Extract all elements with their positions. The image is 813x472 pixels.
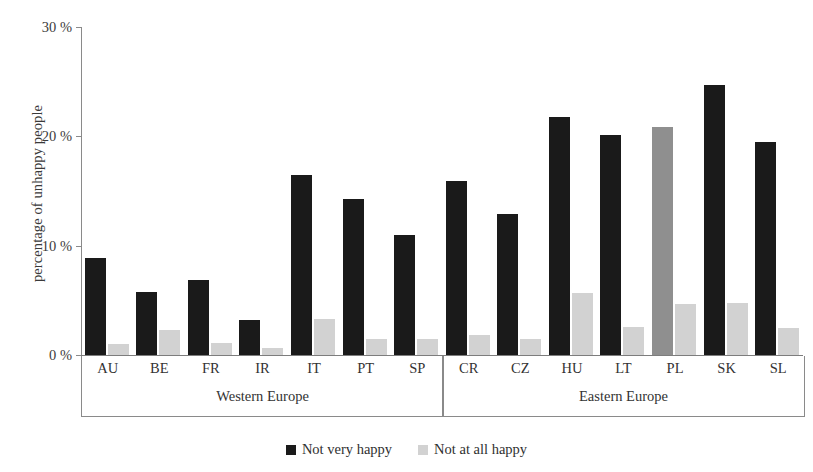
y-tick-label: 0 % [12,347,72,364]
bar-group [236,27,288,355]
bar [159,330,180,355]
bar-group [287,27,339,355]
bar-group [133,27,185,355]
category-label: AU [86,360,130,377]
bar-group [597,27,649,355]
bar [343,199,364,355]
bar-group [700,27,752,355]
category-label: SP [395,360,439,377]
bar [314,319,335,355]
category-group-box: AUBEFRIRITPTSPWestern Europe [81,356,444,417]
bar [469,335,490,355]
bar [136,292,157,355]
legend-item: Not very happy [286,441,392,458]
bar [778,328,799,355]
category-label: PL [653,360,697,377]
y-axis-title: percentage of unhappy people [29,64,46,324]
legend-item: Not at all happy [418,441,527,458]
bar [291,175,312,355]
category-label: CR [447,360,491,377]
bar-group [648,27,700,355]
category-label: BE [137,360,181,377]
plot-area: 0 %10 %20 %30 % [81,27,803,355]
y-tick-label: 10 % [12,237,72,254]
category-axis: AUBEFRIRITPTSPWestern EuropeCRCZHULTPLSK… [81,356,803,416]
bar [652,127,673,356]
bar-chart: percentage of unhappy people 0 %10 %20 %… [0,0,813,472]
bar [704,85,725,355]
bar-group [494,27,546,355]
chart-legend: Not very happyNot at all happy [0,441,813,458]
bar [675,304,696,355]
bar [497,214,518,355]
y-tick-label: 20 % [12,128,72,145]
category-group-label: Western Europe [82,388,443,405]
bar [85,258,106,355]
bar [417,339,438,355]
bar [394,235,415,355]
bar [366,339,387,355]
bar-group [442,27,494,355]
bar-group [751,27,803,355]
y-tick-mark [76,136,81,137]
bar [520,339,541,355]
bar-group [339,27,391,355]
category-group-box: CRCZHULTPLSKSLEastern Europe [442,356,805,417]
bar [600,135,621,355]
category-label: FR [189,360,233,377]
bar-group [390,27,442,355]
legend-swatch-icon [286,445,296,455]
legend-label: Not very happy [302,441,392,458]
bar-group [81,27,133,355]
bar-group [545,27,597,355]
bar [211,343,232,355]
y-tick-mark [76,27,81,28]
y-tick-label: 30 % [12,19,72,36]
category-label: PT [344,360,388,377]
category-label: LT [602,360,646,377]
bar [623,327,644,355]
category-label: SK [705,360,749,377]
bar [549,117,570,355]
bar [572,293,593,355]
legend-swatch-icon [418,445,428,455]
category-label: SL [756,360,800,377]
bar [727,303,748,355]
legend-label: Not at all happy [434,441,527,458]
y-tick-mark [76,246,81,247]
category-label: CZ [498,360,542,377]
bars-layer [81,27,803,355]
bar [188,280,209,355]
bar [108,344,129,355]
category-label: HU [550,360,594,377]
category-group-label: Eastern Europe [443,388,804,405]
bar-group [184,27,236,355]
bar [262,348,283,355]
bar [239,320,260,355]
category-label: IR [241,360,285,377]
bar [755,142,776,355]
bar [446,181,467,355]
category-label: IT [292,360,336,377]
